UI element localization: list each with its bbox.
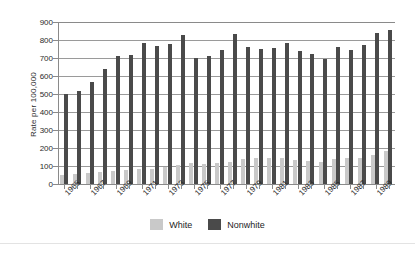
bar-white [319, 162, 323, 185]
bar-nonwhite [375, 33, 379, 184]
bar-group [228, 22, 241, 184]
y-axis-title: Rate per 100,000 [29, 25, 38, 185]
bar-nonwhite [285, 43, 289, 184]
bar-white [60, 175, 64, 184]
bar-group [202, 22, 215, 184]
bar-white [293, 160, 297, 184]
bar-group [86, 22, 99, 184]
bar-group [215, 22, 228, 184]
x-tick-mark [337, 185, 338, 189]
bar-white [163, 167, 167, 184]
bar-group [293, 22, 306, 184]
x-tick-mark [259, 185, 260, 189]
bar-group [150, 22, 163, 184]
legend-swatch-white-icon [150, 219, 163, 230]
x-tick-mark [389, 185, 390, 189]
bar-group [137, 22, 150, 184]
bar-group [73, 22, 86, 184]
bar-nonwhite [246, 47, 250, 184]
y-tick-label: 500 [13, 90, 53, 99]
y-tick-label: 0 [13, 180, 53, 189]
y-tick-label: 100 [13, 162, 53, 171]
legend-item-nonwhite[interactable]: Nonwhite [208, 219, 265, 230]
bar-group [111, 22, 124, 184]
bar-nonwhite [272, 48, 276, 184]
legend-item-white[interactable]: White [150, 219, 192, 230]
bar-group [371, 22, 384, 184]
bar-group [176, 22, 189, 184]
bar-group [124, 22, 137, 184]
bar-nonwhite [362, 45, 366, 185]
bar-nonwhite [323, 59, 327, 184]
bar-white [267, 158, 271, 184]
x-tick-mark [77, 185, 78, 189]
bar-nonwhite [259, 49, 263, 184]
bar-nonwhite [220, 50, 224, 184]
bar-white [86, 173, 90, 184]
bar-white [345, 158, 349, 184]
y-tick-label: 200 [13, 144, 53, 153]
bar-nonwhite [349, 50, 353, 184]
bar-white [137, 169, 141, 184]
x-tick-mark [155, 185, 156, 189]
legend-swatch-nonwhite-icon [208, 219, 221, 230]
bar-white [241, 159, 245, 184]
bar-nonwhite [310, 54, 314, 184]
bar-group [332, 22, 345, 184]
bar-group [98, 22, 111, 184]
bar-group [384, 22, 397, 184]
y-tick-label: 800 [13, 36, 53, 45]
bars-layer [58, 22, 395, 184]
x-tick-mark [363, 185, 364, 189]
bar-white [371, 155, 375, 184]
bar-group [358, 22, 371, 184]
bar-white [111, 171, 115, 184]
y-tick-label: 600 [13, 72, 53, 81]
footer-divider [0, 243, 415, 244]
bar-nonwhite [155, 46, 159, 184]
bar-nonwhite [207, 56, 211, 184]
bar-group [189, 22, 202, 184]
legend-label-white: White [169, 220, 192, 230]
x-tick-mark [129, 185, 130, 189]
bar-group [345, 22, 358, 184]
bar-chart: Rate per 100,000 01002003004005006007008… [0, 0, 415, 253]
bar-nonwhite [298, 51, 302, 184]
bar-nonwhite [233, 34, 237, 184]
chart-legend: White Nonwhite [0, 219, 415, 230]
x-tick-mark [207, 185, 208, 189]
bar-group [267, 22, 280, 184]
bar-nonwhite [77, 91, 81, 184]
y-tick-label: 900 [13, 18, 53, 27]
bar-group [306, 22, 319, 184]
bar-group [280, 22, 293, 184]
bar-nonwhite [90, 82, 94, 184]
bar-nonwhite [103, 69, 107, 184]
bar-group [254, 22, 267, 184]
bar-nonwhite [142, 43, 146, 184]
bar-nonwhite [116, 56, 120, 184]
bar-nonwhite [129, 55, 133, 184]
legend-label-nonwhite: Nonwhite [227, 220, 265, 230]
bar-group [163, 22, 176, 184]
x-tick-mark [311, 185, 312, 189]
bar-group [241, 22, 254, 184]
bar-nonwhite [64, 94, 68, 184]
y-tick-label: 400 [13, 108, 53, 117]
bar-nonwhite [336, 47, 340, 184]
y-tick-label: 300 [13, 126, 53, 135]
bar-group [60, 22, 73, 184]
bar-group [319, 22, 332, 184]
x-tick-mark [103, 185, 104, 189]
x-tick-mark [233, 185, 234, 189]
bar-nonwhite [168, 44, 172, 184]
bar-nonwhite [388, 30, 392, 184]
bar-nonwhite [194, 58, 198, 184]
bar-white [189, 163, 193, 184]
x-tick-mark [181, 185, 182, 189]
bar-nonwhite [181, 35, 185, 184]
x-tick-mark [285, 185, 286, 189]
y-tick-label: 700 [13, 54, 53, 63]
bar-white [215, 163, 219, 184]
